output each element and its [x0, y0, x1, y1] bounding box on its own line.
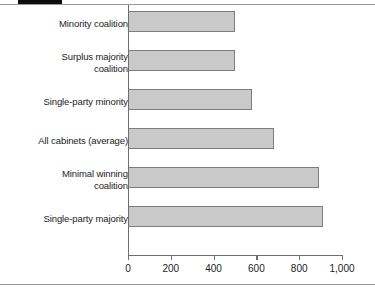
category-axis-line — [128, 5, 129, 255]
xtick-400 — [214, 255, 215, 260]
category-label-single-party-majority: Single-party majority — [8, 213, 128, 225]
category-label-minority-coalition: Minority coalition — [8, 18, 128, 30]
xtick-label-600: 600 — [248, 263, 265, 274]
xtick-label-0: 0 — [125, 263, 131, 274]
bar-chart-figure: Minority coalition Surplus majority coal… — [0, 0, 375, 292]
xtick-label-800: 800 — [291, 263, 308, 274]
xtick-1000 — [342, 255, 343, 260]
bar-minimal-winning-coalition — [128, 167, 319, 188]
bar-all-cabinets-average — [128, 128, 274, 149]
xtick-label-1000: 1,000 — [329, 263, 354, 274]
bar-minority-coalition — [128, 11, 235, 32]
plot-area: Minority coalition Surplus majority coal… — [0, 5, 375, 283]
value-axis-line — [128, 255, 342, 256]
xtick-200 — [171, 255, 172, 260]
bar-single-party-minority — [128, 89, 252, 110]
xtick-600 — [256, 255, 257, 260]
bottom-divider-rule — [0, 284, 375, 285]
xtick-label-400: 400 — [205, 263, 222, 274]
xtick-800 — [299, 255, 300, 260]
category-label-minimal-winning-coalition: Minimal winning coalition — [8, 168, 128, 191]
category-label-surplus-majority-coalition: Surplus majority coalition — [8, 51, 128, 74]
category-label-all-cabinets-average: All cabinets (average) — [8, 135, 128, 147]
bar-surplus-majority-coalition — [128, 50, 235, 71]
xtick-label-200: 200 — [162, 263, 179, 274]
category-label-single-party-minority: Single-party minority — [8, 96, 128, 108]
bar-single-party-majority — [128, 206, 323, 227]
xtick-0 — [128, 255, 129, 260]
